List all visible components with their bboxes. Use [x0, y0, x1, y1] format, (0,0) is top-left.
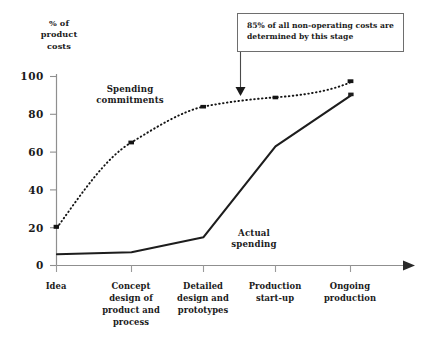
x-tick-line: start-up [232, 293, 318, 305]
spending-commitments-marker [54, 225, 59, 229]
spending-commitments-marker [128, 141, 134, 145]
series-actual-spending [57, 93, 354, 255]
x-tick-line: production [307, 293, 393, 305]
y-axis-caption: % of product costs [28, 18, 90, 52]
x-tick-label-production-startup: Production start-up [232, 281, 318, 305]
y-tick-label-0: 0 [14, 260, 44, 271]
x-tick-line: Production [232, 281, 318, 293]
x-tick-line: Idea [13, 281, 99, 293]
y-tick-label-60: 60 [14, 147, 44, 158]
y-tick-label-40: 40 [14, 185, 44, 196]
y-axis-caption-line: costs [28, 41, 90, 52]
chart-container: % of product costs 100 80 60 40 20 0 Ide… [0, 0, 429, 337]
actual-spending-line [57, 95, 351, 254]
y-axis-caption-line: product [28, 29, 90, 40]
y-axis-ticks [50, 77, 57, 266]
x-tick-line: Ongoing [307, 281, 393, 293]
x-tick-line: prototypes [160, 305, 246, 317]
annotation-arrowhead [236, 87, 246, 96]
spending-commitments-marker [348, 79, 354, 83]
annotation-callout-box: 85% of all non-operating costs are deter… [237, 13, 404, 52]
series-label-actual-spending: Actual spending [214, 228, 294, 250]
x-axis-arrowhead [403, 261, 415, 271]
x-tick-label-ongoing-production: Ongoing production [307, 281, 393, 305]
annotation-callout-text: 85% of all non-operating costs are deter… [247, 20, 397, 42]
y-tick-label-20: 20 [14, 223, 44, 234]
actual-spending-marker [348, 93, 353, 97]
x-tick-label-idea: Idea [13, 281, 99, 293]
y-axis-caption-line: % of [28, 18, 90, 29]
annotation-leader [236, 52, 246, 96]
spending-commitments-marker [273, 96, 279, 100]
y-tick-label-80: 80 [14, 109, 44, 120]
spending-commitments-marker [200, 105, 206, 109]
x-axis-ticks [57, 266, 351, 273]
x-tick-line: process [88, 317, 174, 329]
y-tick-label-100: 100 [14, 71, 44, 82]
series-label-spending-commitments: Spending commitments [78, 84, 182, 106]
